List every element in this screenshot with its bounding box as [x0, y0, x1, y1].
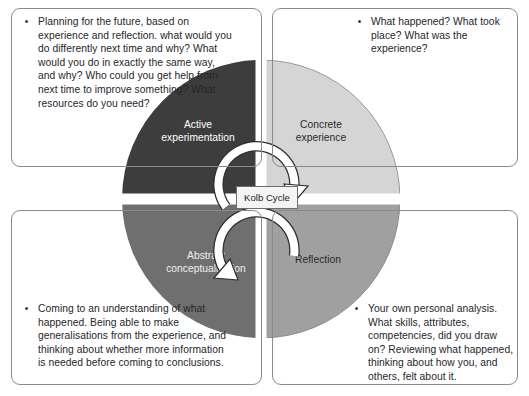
panel-top-left-text: Planning for the future, based on experi… — [38, 15, 232, 110]
kolb-cycle-diagram: Active experimentation Concrete experien… — [0, 0, 529, 396]
panel-bottom-right-text: Your own personal analysis. What skills,… — [368, 302, 517, 384]
bullet-icon: • — [352, 302, 361, 384]
bullet-icon: • — [355, 15, 364, 56]
kolb-cycle-center-label: Kolb Cycle — [236, 186, 298, 209]
panel-text-top-right: • What happened? What took place? What w… — [355, 15, 515, 56]
panel-top-right-text: What happened? What took place? What was… — [371, 15, 515, 56]
bullet-icon: • — [22, 302, 31, 370]
bullet-icon: • — [22, 15, 31, 110]
panel-text-bottom-right: • Your own personal analysis. What skill… — [352, 302, 517, 384]
panel-bottom-left-text: Coming to an understanding of what happe… — [38, 302, 234, 370]
panel-text-top-left: • Planning for the future, based on expe… — [22, 15, 232, 110]
panel-text-bottom-left: • Coming to an understanding of what hap… — [22, 302, 234, 370]
